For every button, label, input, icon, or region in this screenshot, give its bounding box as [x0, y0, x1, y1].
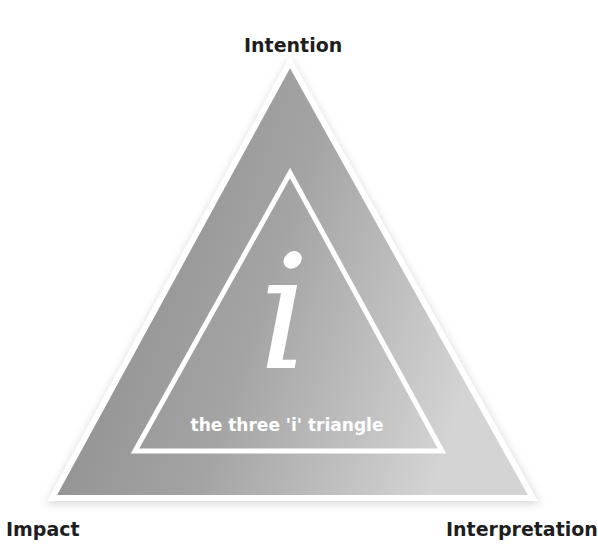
vertex-label-impact: Impact — [6, 518, 80, 540]
diagram-caption: the three 'i' triangle — [191, 415, 384, 435]
vertex-label-interpretation: Interpretation — [446, 518, 598, 540]
vertex-label-intention: Intention — [244, 34, 342, 56]
three-i-triangle-diagram: i the three 'i' triangle — [0, 0, 598, 557]
italic-i-glyph: i — [258, 219, 309, 406]
